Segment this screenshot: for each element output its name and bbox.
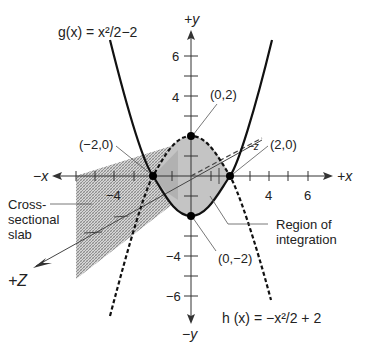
pos-x-label: +x [337,169,352,183]
slab-label-line3: slab [8,228,32,241]
neg-z-label: −z [248,142,259,152]
region-label-line2: integration [276,233,337,246]
y-tick-label-neg4: −4 [166,250,181,263]
y-tick-label-6: 6 [172,50,179,63]
x-tick-label-4: 4 [265,189,272,202]
y-tick-label-4: 4 [172,91,179,104]
point-2-0 [226,172,234,180]
point-label-0-neg2: (0,−2) [218,252,252,265]
point-0-2 [187,132,195,140]
neg-x-label: −x [33,169,48,183]
x-tick-label-neg4: −4 [106,189,121,202]
region-label-line1: Region of [276,218,332,231]
point-label-2-0: (2,0) [270,138,297,151]
h-function-label: h (x) = −x²/2 + 2 [222,311,321,325]
pos-z-arrow-icon [33,258,52,268]
slab-label-line1: Cross- [8,198,46,211]
slab-label-line2: sectional [8,213,59,226]
pos-z-label: +Z [8,273,27,289]
x-tick-label-6: 6 [304,189,311,202]
point-label-0-2: (0,2) [210,88,237,101]
g-function-label: g(x) = x²/2−2 [58,25,137,39]
y-tick-label-neg6: −6 [166,290,181,303]
pos-y-label: +y [184,12,199,26]
point-neg2-0 [149,172,157,180]
point-label-neg2-0: (−2,0) [79,138,113,151]
neg-y-label: −y [182,327,197,341]
point-0-neg2 [187,212,195,220]
diagram-canvas [0,0,367,353]
